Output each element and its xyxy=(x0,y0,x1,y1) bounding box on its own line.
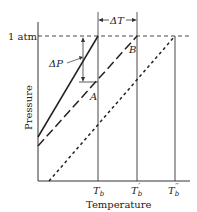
delta-p-leader xyxy=(67,58,81,63)
one-atm-label: 1 atm xyxy=(8,31,38,42)
delta-p-leader-head xyxy=(79,56,83,60)
solid-curve xyxy=(38,36,98,137)
delta-t-arrow-left-head xyxy=(98,18,103,22)
tick-tb-prime: Tb′ xyxy=(131,181,143,198)
phase-diagram: 1 atm ΔP ΔT A B Pressure Tb Tb′ Tb′′ Tem… xyxy=(0,0,197,212)
x-axis-label: Temperature xyxy=(86,199,152,210)
y-axis-label: Pressure xyxy=(23,85,34,130)
point-b-label: B xyxy=(128,44,136,55)
delta-p-arrow-top-head xyxy=(81,37,85,42)
delta-t-label: ΔT xyxy=(109,15,125,26)
delta-p-label: ΔP xyxy=(48,58,63,69)
delta-p-arrow-bottom-head xyxy=(81,77,85,82)
tick-tb-double-prime: Tb′′ xyxy=(168,181,180,198)
short-dashed-curve xyxy=(49,36,175,181)
point-a-label: A xyxy=(89,91,97,102)
delta-t-arrow-right-head xyxy=(132,18,137,22)
tick-tb: Tb xyxy=(93,185,105,198)
